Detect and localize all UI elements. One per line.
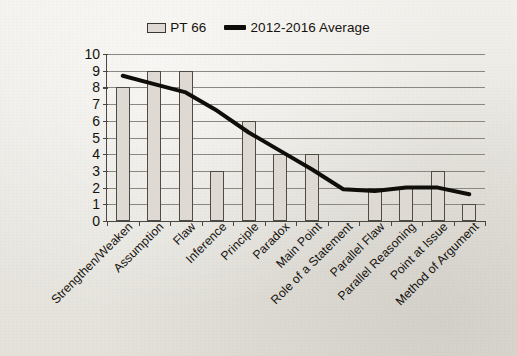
average-trend-line xyxy=(123,76,470,195)
x-axis-labels: Strengthen/WeakenAssumptionFlawInference… xyxy=(0,221,517,356)
y-tick-label-5: 5 xyxy=(70,131,100,145)
bar-swatch-icon xyxy=(147,23,166,33)
plot-area xyxy=(107,54,485,221)
y-tick-label-1: 1 xyxy=(70,197,100,211)
y-tick-label-2: 2 xyxy=(70,181,100,195)
y-tick-label-3: 3 xyxy=(70,164,100,178)
line-series-average xyxy=(107,54,485,221)
y-tick-label-10: 10 xyxy=(70,47,100,61)
chart-legend: PT 66 2012-2016 Average xyxy=(0,20,517,35)
combo-chart: PT 66 2012-2016 Average 109876543210 Str… xyxy=(0,0,517,356)
y-tick-label-8: 8 xyxy=(70,80,100,94)
y-tick-label-7: 7 xyxy=(70,97,100,111)
y-axis-labels: 109876543210 xyxy=(66,54,100,221)
y-tick-label-6: 6 xyxy=(70,114,100,128)
legend-label-average: 2012-2016 Average xyxy=(250,20,369,35)
y-tick-label-9: 9 xyxy=(70,64,100,78)
legend-item-average: 2012-2016 Average xyxy=(224,20,369,35)
line-swatch-icon xyxy=(224,25,246,30)
y-tick-label-4: 4 xyxy=(70,147,100,161)
legend-label-pt66: PT 66 xyxy=(170,20,206,35)
legend-item-pt66: PT 66 xyxy=(147,20,206,35)
